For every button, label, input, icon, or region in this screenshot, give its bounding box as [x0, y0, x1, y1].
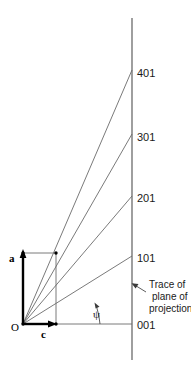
projection-diagram: 401 301 201 101 001 a c O ψ Trace of pla…	[0, 0, 191, 372]
a-axis-label: a	[9, 252, 15, 264]
figure-container: 401 301 201 101 001 a c O ψ Trace of pla…	[0, 0, 191, 372]
index-label-401: 401	[137, 67, 155, 79]
lattice-point-a	[21, 251, 24, 254]
index-label-001: 001	[137, 319, 155, 331]
ray-401	[23, 70, 132, 324]
lattice-point-ac	[54, 251, 57, 254]
c-axis-label: c	[41, 328, 46, 340]
ray-101	[23, 256, 132, 324]
origin-label: O	[11, 321, 19, 333]
index-label-101: 101	[137, 252, 155, 264]
lattice-point-c	[54, 322, 57, 325]
index-label-201: 201	[137, 192, 155, 204]
lattice-point-origin	[21, 322, 24, 325]
annotation-line-3: projection	[149, 303, 191, 314]
index-label-301: 301	[137, 131, 155, 143]
annotation-line-2: plane of	[152, 291, 188, 302]
ray-301	[23, 134, 132, 324]
ray-201	[23, 196, 132, 324]
annotation-line-1: Trace of	[149, 279, 186, 290]
psi-angle-label: ψ	[93, 308, 100, 320]
